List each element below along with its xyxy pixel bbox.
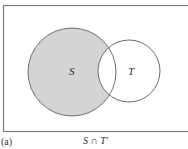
caption-expression: S ∩ T′ <box>83 135 108 146</box>
set-s-label: S <box>69 65 75 77</box>
venn-diagram <box>0 0 188 149</box>
caption-part-label: (a) <box>1 136 12 147</box>
set-t-label: T <box>128 65 134 77</box>
